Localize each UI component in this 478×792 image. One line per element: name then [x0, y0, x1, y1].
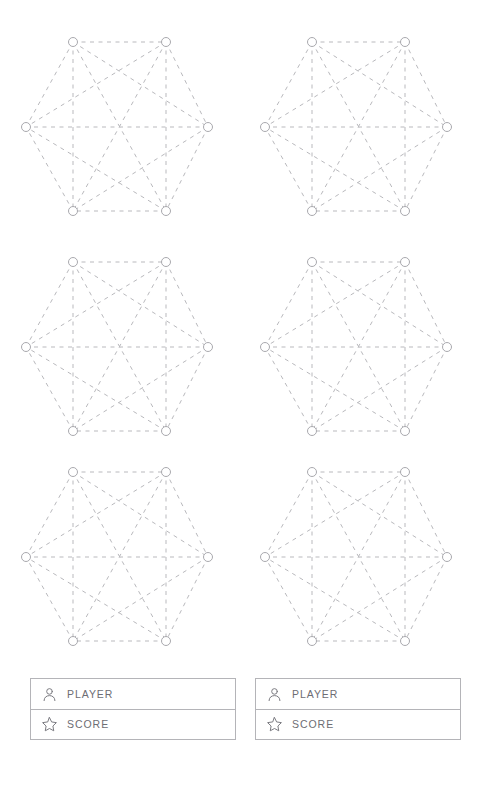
graph-edge — [265, 127, 312, 211]
graph-edge — [265, 472, 312, 557]
graph-node-top-right[interactable] — [162, 468, 171, 477]
graph-node-bottom-right[interactable] — [162, 637, 171, 646]
hexagon-graph-svg — [0, 20, 239, 240]
graph-edge — [265, 347, 312, 431]
graph-edge — [265, 262, 312, 347]
hexagon-graph-4[interactable] — [239, 240, 478, 460]
person-icon — [266, 686, 283, 703]
graph-edge — [405, 42, 447, 127]
graph-node-top-right[interactable] — [162, 38, 171, 47]
graph-node-top-left[interactable] — [308, 468, 317, 477]
graph-edge — [405, 557, 447, 641]
graph-node-left[interactable] — [22, 343, 31, 352]
graph-edge — [265, 42, 405, 127]
edge-group — [26, 472, 208, 641]
edge-group — [26, 42, 208, 211]
scoreboard-left-label-player: PLAYER — [67, 689, 113, 700]
graph-node-bottom-right[interactable] — [401, 207, 410, 216]
node-group — [22, 258, 213, 436]
hexagon-graph-svg — [239, 240, 478, 460]
graph-edge — [405, 472, 447, 557]
graph-edge — [265, 557, 312, 641]
scoreboard-area: PLAYERSCOREPLAYERSCORE — [0, 670, 478, 792]
graph-node-bottom-left[interactable] — [69, 207, 78, 216]
graph-node-left[interactable] — [261, 553, 270, 562]
graph-edge — [73, 127, 208, 211]
star-icon — [41, 716, 58, 733]
graph-node-left[interactable] — [22, 553, 31, 562]
scoreboard-left-row-score[interactable]: SCORE — [31, 709, 235, 739]
scoreboard-right-row-score[interactable]: SCORE — [256, 709, 460, 739]
graph-node-bottom-right[interactable] — [401, 637, 410, 646]
graph-node-right[interactable] — [443, 123, 452, 132]
graph-node-top-right[interactable] — [162, 258, 171, 267]
graph-edge — [312, 347, 447, 431]
star-icon — [266, 716, 283, 733]
graph-node-left[interactable] — [261, 343, 270, 352]
scoreboard-right[interactable]: PLAYERSCORE — [255, 678, 461, 740]
node-group — [22, 468, 213, 646]
graph-node-left[interactable] — [261, 123, 270, 132]
edge-group — [265, 42, 447, 211]
node-group — [261, 258, 452, 436]
hexagon-graph-1[interactable] — [0, 20, 239, 240]
graph-node-bottom-left[interactable] — [69, 427, 78, 436]
scoreboard-left-row-player[interactable]: PLAYER — [31, 679, 235, 709]
graph-node-right[interactable] — [204, 553, 213, 562]
graph-edge — [26, 42, 73, 127]
graph-edge — [166, 42, 208, 127]
scoreboard-left-label-score: SCORE — [67, 719, 109, 730]
graph-node-right[interactable] — [204, 123, 213, 132]
graph-edge — [312, 557, 447, 641]
edge-group — [265, 262, 447, 431]
graph-node-left[interactable] — [22, 123, 31, 132]
graph-edge — [26, 347, 73, 431]
hexagon-graph-board — [0, 0, 478, 670]
graph-node-right[interactable] — [443, 553, 452, 562]
graph-edge — [166, 347, 208, 431]
graph-edge — [405, 347, 447, 431]
graph-edge — [26, 472, 73, 557]
hexagon-graph-6[interactable] — [239, 450, 478, 670]
graph-edge — [265, 472, 405, 557]
hexagon-graph-5[interactable] — [0, 450, 239, 670]
person-icon — [41, 686, 58, 703]
graph-edge — [73, 262, 208, 347]
graph-edge — [312, 472, 447, 557]
graph-node-bottom-right[interactable] — [162, 427, 171, 436]
graph-edge — [26, 262, 166, 347]
hexagon-graph-2[interactable] — [239, 20, 478, 240]
graph-edge — [166, 127, 208, 211]
scoreboard-right-label-player: PLAYER — [292, 689, 338, 700]
hexagon-graph-3[interactable] — [0, 240, 239, 460]
graph-node-top-right[interactable] — [401, 38, 410, 47]
graph-edge — [26, 262, 73, 347]
graph-node-right[interactable] — [443, 343, 452, 352]
graph-edge — [405, 262, 447, 347]
graph-node-bottom-left[interactable] — [308, 207, 317, 216]
hexagon-graph-svg — [0, 450, 239, 670]
graph-node-top-left[interactable] — [308, 258, 317, 267]
hexagon-graph-svg — [0, 240, 239, 460]
graph-node-top-right[interactable] — [401, 258, 410, 267]
scoreboard-left[interactable]: PLAYERSCORE — [30, 678, 236, 740]
scoreboard-right-row-player[interactable]: PLAYER — [256, 679, 460, 709]
graph-edge — [26, 472, 166, 557]
graph-edge — [26, 42, 166, 127]
graph-node-top-right[interactable] — [401, 468, 410, 477]
graph-node-top-left[interactable] — [69, 258, 78, 267]
graph-node-right[interactable] — [204, 343, 213, 352]
graph-node-bottom-left[interactable] — [308, 637, 317, 646]
graph-node-top-left[interactable] — [69, 468, 78, 477]
graph-node-bottom-right[interactable] — [401, 427, 410, 436]
graph-edge — [166, 262, 208, 347]
graph-node-bottom-left[interactable] — [69, 637, 78, 646]
graph-node-top-left[interactable] — [69, 38, 78, 47]
graph-edge — [73, 557, 208, 641]
graph-edge — [405, 127, 447, 211]
graph-node-bottom-left[interactable] — [308, 427, 317, 436]
graph-edge — [73, 42, 208, 127]
edge-group — [26, 262, 208, 431]
graph-node-bottom-right[interactable] — [162, 207, 171, 216]
graph-node-top-left[interactable] — [308, 38, 317, 47]
